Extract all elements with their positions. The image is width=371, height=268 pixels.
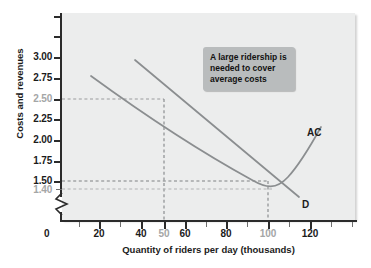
y-tick-top-minor xyxy=(54,16,62,18)
y-tick-label-3-00: 3.00 xyxy=(0,51,52,62)
cost-revenue-chart: 3.00 2.75 2.50 2.25 2.00 1.75 1.50 1.40 … xyxy=(0,0,371,268)
y-tick-2-50 xyxy=(54,99,62,101)
y-tick-3-00 xyxy=(54,57,62,59)
y-tick-1-75 xyxy=(54,161,62,163)
curve-label-ac: AC xyxy=(307,127,321,138)
x-tick-label-100: 100 xyxy=(253,228,283,239)
y-tick-label-2-50: 2.50 xyxy=(0,93,52,104)
x-tick-label-120: 120 xyxy=(295,228,325,239)
y-tick-label-2-25: 2.25 xyxy=(0,113,52,124)
curve-label-d: D xyxy=(302,199,309,210)
x-tick-110 xyxy=(289,222,290,227)
callout-line-3: average costs xyxy=(210,74,289,85)
x-tick-30 xyxy=(120,222,121,227)
axis-break-icon xyxy=(53,193,71,215)
ridership-callout: A large ridership is needed to cover ave… xyxy=(203,47,295,91)
y-axis-line xyxy=(60,13,62,197)
y-tick-label-1-40: 1.40 xyxy=(0,184,52,195)
y-axis-title: Costs and revenues xyxy=(14,39,25,149)
y-tick-2-25 xyxy=(54,119,62,121)
y-tick-label-2-00: 2.00 xyxy=(0,134,52,145)
y-tick-1-50 xyxy=(54,181,62,183)
y-tick-label-2-75: 2.75 xyxy=(0,72,52,83)
x-tick-label-20: 20 xyxy=(84,228,114,239)
x-tick-label-80: 80 xyxy=(211,228,241,239)
x-tick-10 xyxy=(79,222,80,227)
y-tick-1-40 xyxy=(56,189,62,190)
y-tick-2-75 xyxy=(54,78,62,80)
callout-line-1: A large ridership is xyxy=(210,52,289,63)
origin-label: 0 xyxy=(44,228,50,239)
y-tick-2-00 xyxy=(54,140,62,142)
y-tick-upper-minor xyxy=(54,36,62,38)
x-axis-title: Quantity of riders per day (thousands) xyxy=(60,244,357,255)
x-tick-label-60: 60 xyxy=(170,228,200,239)
plot-area xyxy=(62,13,355,220)
x-tick-140 xyxy=(352,222,353,227)
x-axis-line xyxy=(60,220,357,222)
x-tick-130 xyxy=(331,222,332,227)
x-tick-90 xyxy=(247,222,248,227)
callout-line-2: needed to cover xyxy=(210,63,289,74)
y-tick-label-1-75: 1.75 xyxy=(0,155,52,166)
x-tick-70 xyxy=(206,222,207,227)
